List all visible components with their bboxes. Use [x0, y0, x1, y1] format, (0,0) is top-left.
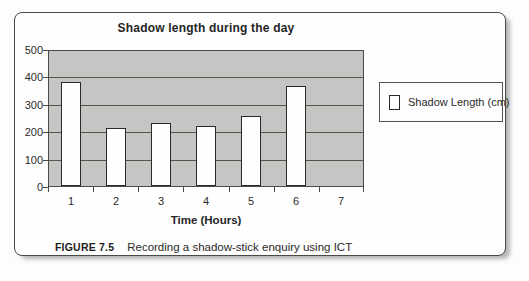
- x-tick-label: 7: [329, 195, 353, 207]
- bar: [151, 123, 171, 186]
- bar: [61, 82, 81, 186]
- bar-chart: 01002003004005001234567: [48, 50, 364, 187]
- x-axis-title: Time (Hours): [48, 214, 364, 226]
- gridline: [49, 77, 363, 78]
- bar: [196, 126, 216, 186]
- y-axis-tick: [43, 160, 48, 161]
- x-tick-label: 5: [239, 195, 263, 207]
- x-axis-tick: [183, 187, 184, 192]
- x-tick-label: 3: [149, 195, 173, 207]
- y-axis-tick: [43, 50, 48, 51]
- bar: [241, 116, 261, 186]
- legend: Shadow Length (cm): [379, 82, 503, 122]
- x-axis-tick: [48, 187, 49, 192]
- y-tick-label: 400: [16, 71, 43, 83]
- x-tick-label: 2: [104, 195, 128, 207]
- x-axis-tick: [274, 187, 275, 192]
- figure-caption: FIGURE 7.5Recording a shadow-stick enqui…: [55, 237, 352, 255]
- y-tick-label: 500: [16, 44, 43, 56]
- x-axis-tick: [363, 187, 364, 192]
- x-tick-label: 6: [284, 195, 308, 207]
- y-tick-label: 300: [16, 99, 43, 111]
- gridline: [49, 105, 363, 106]
- chart-title: Shadow length during the day: [48, 21, 364, 35]
- y-axis-tick: [43, 77, 48, 78]
- y-tick-label: 0: [16, 181, 43, 193]
- y-tick-label: 200: [16, 126, 43, 138]
- y-tick-label: 100: [16, 154, 43, 166]
- legend-swatch-icon: [389, 95, 400, 110]
- x-axis-tick: [93, 187, 94, 192]
- x-axis-tick: [319, 187, 320, 192]
- x-axis-tick: [229, 187, 230, 192]
- figure-caption-text: Recording a shadow-stick enquiry using I…: [127, 241, 352, 253]
- bar: [286, 86, 306, 186]
- figure-frame: Shadow length during the day 01002003004…: [14, 12, 506, 256]
- bar: [106, 128, 126, 186]
- x-axis-tick: [138, 187, 139, 192]
- x-tick-label: 4: [194, 195, 218, 207]
- x-tick-label: 1: [59, 195, 83, 207]
- legend-label: Shadow Length (cm): [408, 96, 510, 108]
- y-axis-tick: [43, 105, 48, 106]
- y-axis-tick: [43, 132, 48, 133]
- figure-caption-label: FIGURE 7.5: [55, 241, 114, 253]
